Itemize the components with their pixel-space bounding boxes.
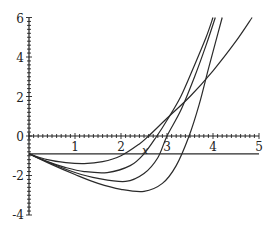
y-tick-label-4: 4 — [16, 51, 24, 65]
axis-ticks — [26, 18, 259, 216]
series-group — [29, 18, 259, 192]
x-tick-label-0: 0 — [16, 130, 24, 144]
y-tick-label-2: 2 — [16, 91, 24, 105]
x-axis-label: x — [142, 144, 149, 157]
x-tick-label-1: 1 — [71, 140, 79, 154]
chart-plot: 0 1 2 3 4 5 6 4 2 -2 -4 x — [0, 0, 279, 236]
y-tick-label-neg2: -2 — [12, 169, 24, 183]
x-tick-label-4: 4 — [209, 140, 217, 154]
x-tick-label-2: 2 — [117, 140, 125, 154]
y-tick-label-6: 6 — [16, 12, 24, 26]
x-tick-label-3: 3 — [163, 140, 171, 154]
y-tick-label-neg4: -4 — [12, 208, 24, 222]
x-tick-label-5: 5 — [255, 140, 263, 154]
series-line-1 — [29, 18, 252, 164]
